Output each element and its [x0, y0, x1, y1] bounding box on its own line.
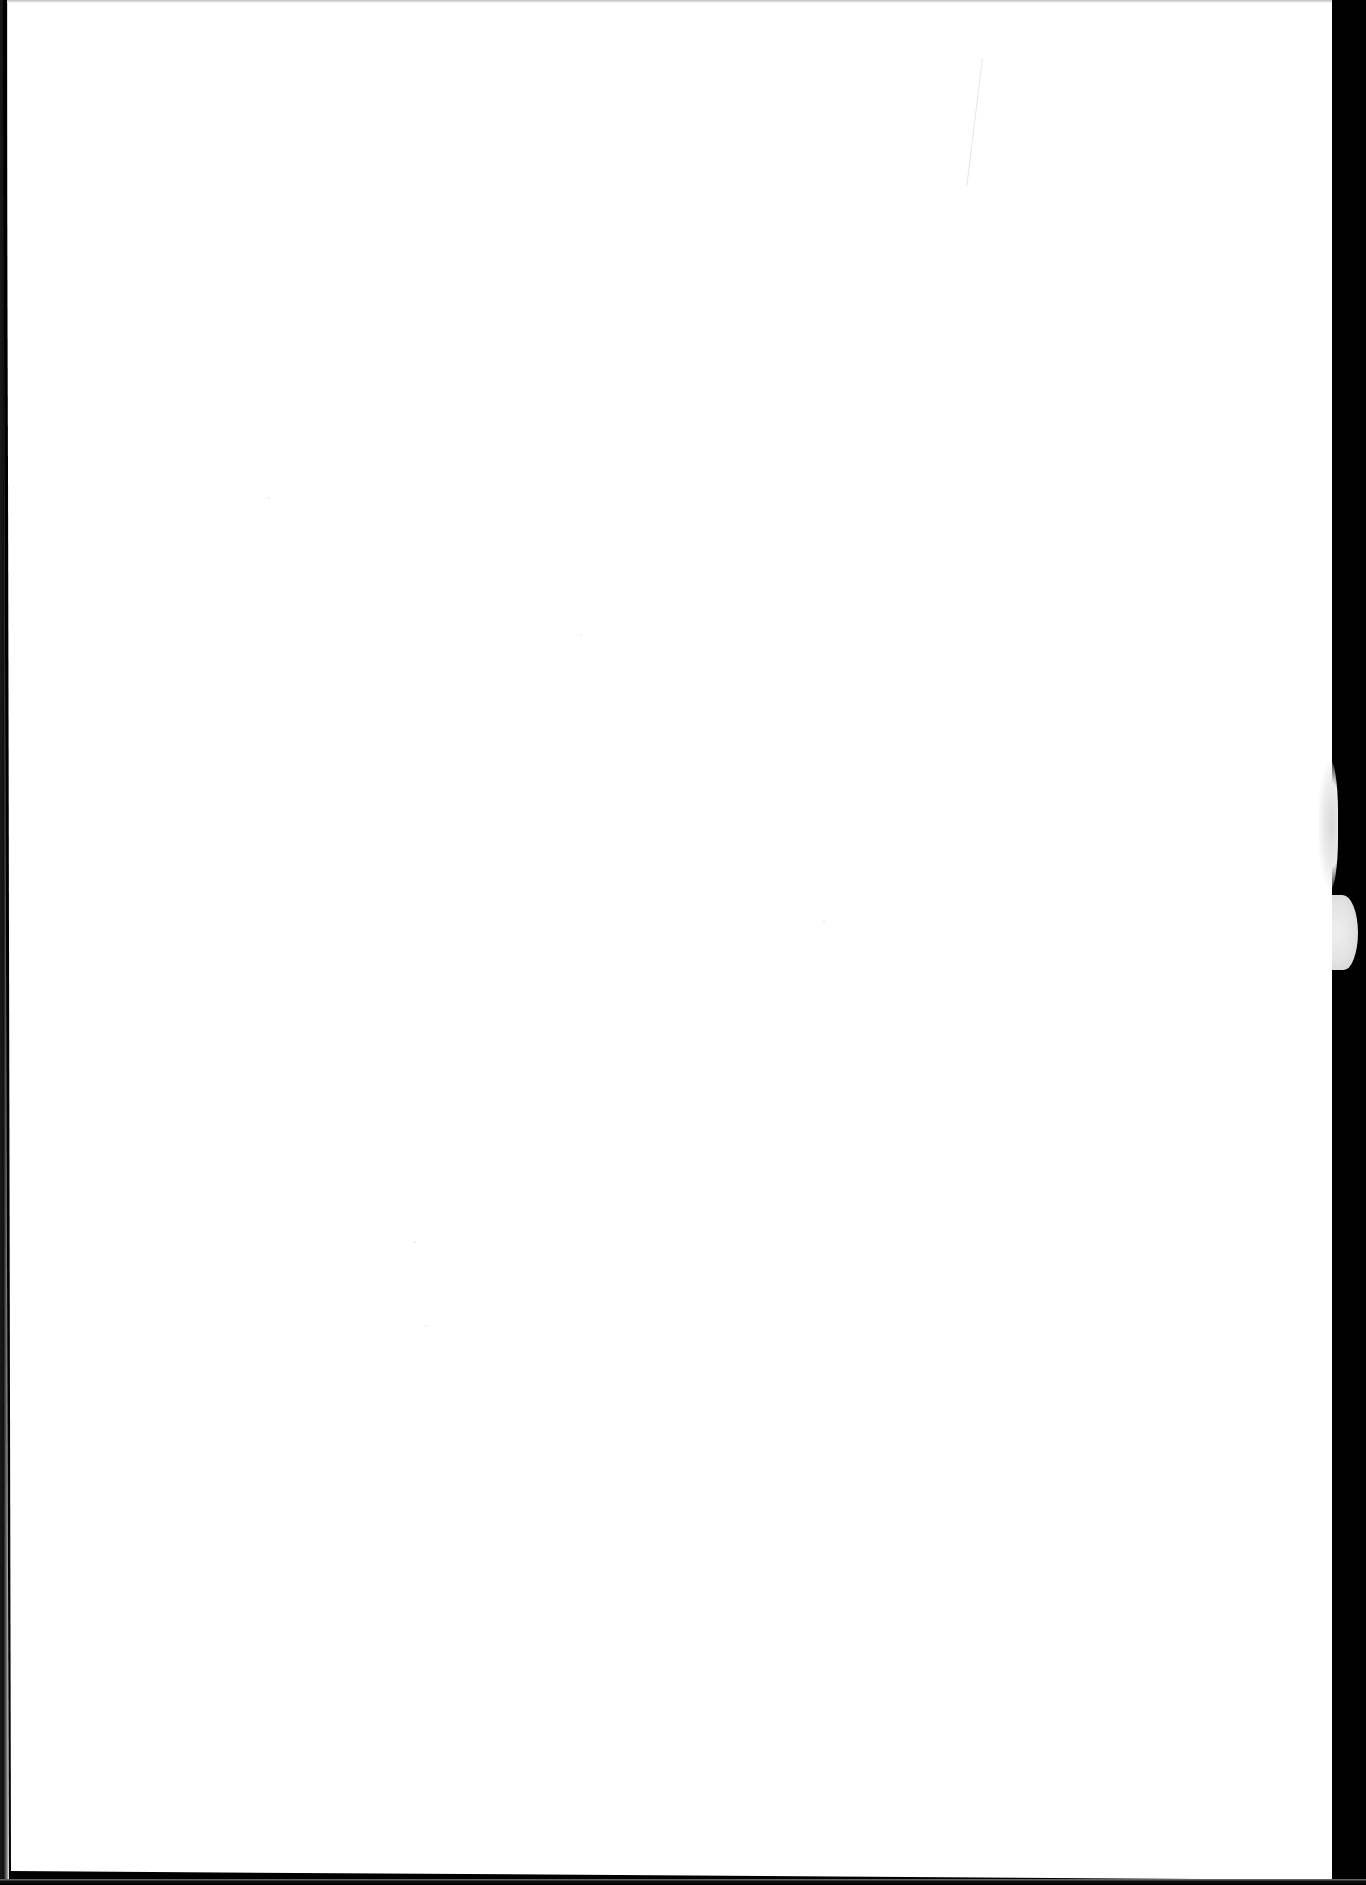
dust-speck: [425, 1325, 427, 1327]
dust-speck: [823, 920, 825, 922]
dust-speck: [268, 497, 270, 499]
top-scan-edge: [7, 0, 1336, 3]
dust-speck: [414, 1241, 416, 1243]
blank-page: [7, 2, 1336, 1880]
bottom-scan-edge: [0, 1879, 1366, 1885]
gray-smudge-mark: [1318, 760, 1338, 890]
dust-speck: [580, 634, 582, 636]
